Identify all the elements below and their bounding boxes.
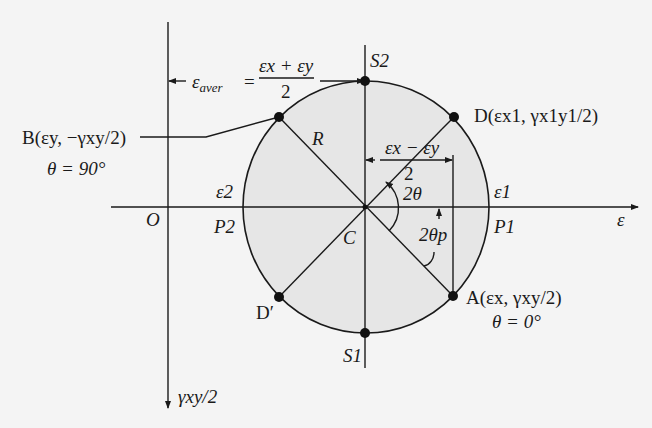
eps-aver-numerator: εx + εy	[259, 55, 314, 76]
S1-label: S1	[343, 345, 362, 366]
center-label: C	[343, 227, 356, 248]
P1-label: P1	[493, 216, 515, 237]
epsilon-1-label: ε1	[494, 181, 511, 202]
origin-label: O	[146, 209, 160, 230]
mohr-circle-diagram: O ε γxy/2 C R S2 S1 P1 P2 ε1 ε2 D(εx1, γ…	[0, 0, 652, 428]
S2-label: S2	[370, 50, 390, 71]
B-note: θ = 90°	[47, 158, 106, 179]
epsilon-2-label: ε2	[216, 181, 233, 202]
two-theta-label: 2θ	[403, 183, 422, 204]
A-label: A(εx, γxy/2)	[466, 287, 562, 309]
epsilon-axis-label: ε	[617, 209, 625, 230]
P2-label: P2	[213, 216, 236, 237]
two-theta-p-label: 2θp	[419, 224, 447, 245]
Dprime-label: D′	[256, 302, 274, 323]
point-S1	[360, 328, 370, 338]
A-note: θ = 0°	[492, 311, 541, 332]
point-B	[274, 112, 284, 122]
point-Dprime	[274, 292, 284, 302]
half-diff-denominator: 2	[404, 163, 414, 184]
eps-aver-lhs: εaver	[192, 71, 224, 95]
D-label: D(εx1, γx1y1/2)	[474, 105, 598, 127]
half-diff-numerator: εx − εy	[385, 137, 440, 158]
eps-aver-denominator: 2	[281, 81, 291, 102]
point-A	[448, 291, 458, 301]
point-D	[449, 112, 459, 122]
point-S2	[360, 76, 370, 86]
eps-aver-equals: =	[244, 71, 255, 92]
point-C	[363, 205, 368, 210]
B-leader	[140, 117, 279, 137]
radius-label: R	[311, 128, 324, 149]
gamma-axis-label: γxy/2	[178, 386, 218, 407]
B-label: B(εy, −γxy/2)	[22, 127, 126, 149]
